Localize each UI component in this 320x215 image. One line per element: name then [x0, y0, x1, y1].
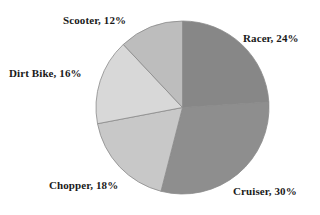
pie-slice-group: [96, 21, 269, 194]
pie-chart-screenshot: Scooter, 12% Racer, 24% Dirt Bike, 16% C…: [0, 0, 320, 215]
pie-label-scooter: Scooter, 12%: [63, 14, 126, 27]
pie-label-cruiser: Cruiser, 30%: [233, 185, 297, 198]
pie-label-chopper: Chopper, 18%: [49, 179, 118, 192]
pie-label-racer: Racer, 24%: [243, 32, 299, 45]
pie-label-dirt-bike: Dirt Bike, 16%: [9, 67, 82, 80]
